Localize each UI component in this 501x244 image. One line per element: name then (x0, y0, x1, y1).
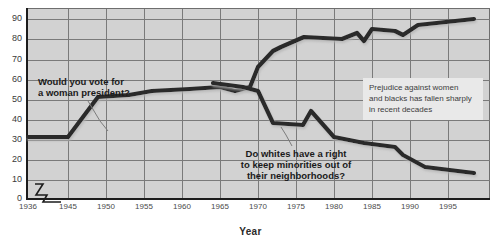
note-line-2: and blacks has fallen sharply (369, 93, 477, 104)
x-tick-1990: 1990 (393, 202, 427, 212)
gridline-x-1950 (106, 9, 107, 200)
y-tick-80: 80 (0, 34, 22, 43)
note-line-1: Prejudice against women (369, 82, 477, 93)
y-tick-40: 40 (0, 115, 22, 124)
chart-container: 90 80 70 60 50 40 30 20 10 0 1936 1945 1… (0, 0, 501, 244)
x-tick-1965: 1965 (203, 202, 237, 212)
callout-woman-line-1: Would you vote for (38, 76, 158, 87)
y-tick-10: 10 (0, 175, 22, 184)
note-line-3: in recent decades (369, 104, 477, 115)
y-tick-50: 50 (0, 95, 22, 104)
callout-whites-line-2: to keep minorities out of (216, 159, 376, 170)
callout-whites-line-1: Do whites have a right (216, 148, 376, 159)
x-tick-1970: 1970 (241, 202, 275, 212)
gridline-x-1960 (182, 9, 183, 200)
callout-woman-president: Would you vote for a woman president? (38, 76, 158, 98)
note-box-prejudice: Prejudice against women and blacks has f… (363, 78, 483, 120)
x-tick-1980: 1980 (317, 202, 351, 212)
callout-whites-line-3: their neighborhoods? (216, 170, 376, 181)
x-tick-1985: 1985 (355, 202, 389, 212)
y-tick-30: 30 (0, 135, 22, 144)
axis-break-icon (33, 182, 65, 204)
y-tick-20: 20 (0, 155, 22, 164)
gridline-x-1955 (144, 9, 145, 200)
callout-woman-line-2: a woman president? (38, 87, 158, 98)
gridline-x-1945 (68, 9, 69, 200)
x-tick-1975: 1975 (279, 202, 313, 212)
x-tick-1955: 1955 (127, 202, 161, 212)
x-axis-title: Year (0, 226, 501, 237)
x-tick-1995: 1995 (431, 202, 465, 212)
x-axis-line (26, 198, 490, 200)
x-tick-1950: 1950 (89, 202, 123, 212)
y-tick-70: 70 (0, 55, 22, 64)
y-tick-90: 90 (0, 14, 22, 23)
y-tick-60: 60 (0, 75, 22, 84)
callout-whites-neighborhoods: Do whites have a right to keep minoritie… (216, 148, 376, 181)
x-tick-1960: 1960 (165, 202, 199, 212)
